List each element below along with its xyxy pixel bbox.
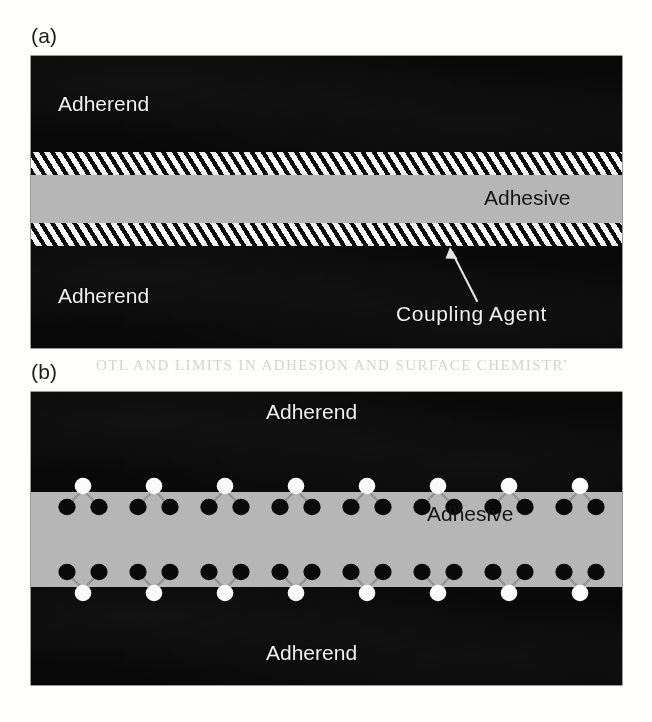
panel-a-coupling-agent-lower-layer — [31, 223, 622, 246]
panel-b-adherend-bottom-layer — [31, 587, 622, 685]
panel-a-coupling-agent-label: Coupling Agent — [396, 302, 547, 326]
figure-adhesive-bonding: (a) Adherend Adhesive Adherend Coupling … — [0, 0, 652, 722]
panel-b-adherend-top-label: Adherend — [266, 400, 357, 424]
panel-label-b: (b) — [31, 360, 57, 384]
panel-label-a: (a) — [31, 24, 57, 48]
panel-b: Adherend Adhesive Adherend — [31, 392, 622, 685]
panel-a-adherend-bottom-label: Adherend — [58, 284, 149, 308]
panel-a-adhesive-label: Adhesive — [484, 186, 570, 210]
panel-a-adherend-top-label: Adherend — [58, 92, 149, 116]
panel-b-adhesive-label: Adhesive — [427, 502, 513, 526]
bleed-through-ghost-text: OTL AND LIMITS IN ADHESION AND SURFACE C… — [96, 357, 566, 373]
panel-b-adherend-bottom-label: Adherend — [266, 641, 357, 665]
panel-b-adhesive-layer — [31, 492, 622, 587]
panel-a: Adherend Adhesive Adherend Coupling Agen… — [31, 56, 622, 348]
panel-a-coupling-agent-upper-layer — [31, 152, 622, 175]
